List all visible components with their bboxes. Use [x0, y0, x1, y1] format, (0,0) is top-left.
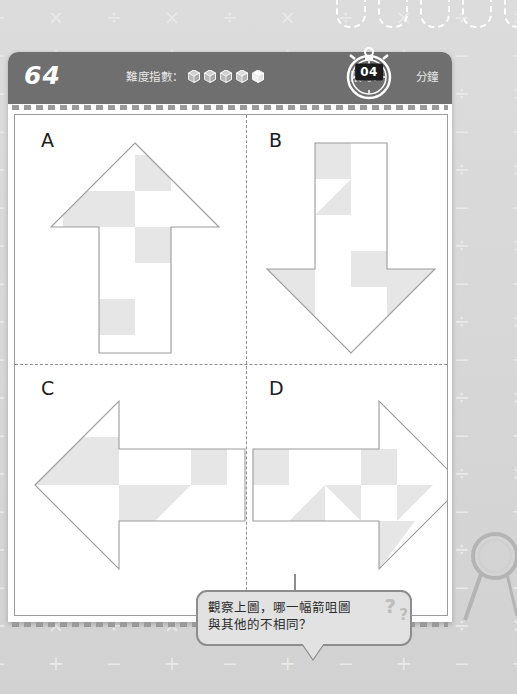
difficulty-label: 難度指數：: [126, 68, 184, 84]
card-header: 64 難度指數： 限時： 分鐘: [8, 52, 452, 104]
magnifier-icon: [461, 520, 517, 640]
difficulty-cube-icon: [236, 70, 248, 83]
puzzle-number: 64: [24, 61, 61, 90]
difficulty-cube-icon: [252, 70, 264, 83]
stopwatch-value: 04: [355, 64, 383, 81]
puzzle-card: 64 難度指數： 限時： 分鐘: [8, 52, 452, 622]
question-text: 觀察上圖，哪一幅箭咀圖 與其他的不相同？: [208, 599, 402, 633]
question-line-1: 觀察上圖，哪一幅箭咀圖: [208, 599, 402, 616]
puzzle-board: A B: [14, 114, 448, 616]
bg-symbol-row: − + − + − + − + − + − + − + − +: [0, 652, 517, 674]
difficulty-cube-icon: [188, 70, 200, 83]
bubble-stem: [294, 574, 296, 592]
question-mark-large-icon: ?: [384, 594, 396, 618]
time-unit-label: 分鐘: [416, 68, 438, 84]
question-line-2: 與其他的不相同？: [208, 616, 402, 633]
figure-d-arrow-right[interactable]: [247, 395, 448, 579]
figure-b-arrow-down[interactable]: [261, 137, 441, 363]
difficulty-indicator: 難度指數：: [126, 68, 264, 84]
difficulty-cube-icon: [204, 70, 216, 83]
difficulty-cube-icon: [220, 70, 232, 83]
stopwatch-icon: 04: [342, 40, 396, 102]
question-mark-small-icon: ?: [399, 606, 408, 624]
question-speech-bubble: 觀察上圖，哪一幅箭咀圖 與其他的不相同？ ? ?: [196, 590, 412, 646]
bubble-tail: [302, 643, 324, 659]
figure-c-arrow-left[interactable]: [29, 395, 251, 579]
divider-horizontal: [15, 364, 447, 365]
figure-a-arrow-up[interactable]: [45, 137, 225, 363]
header-perforation: [12, 105, 448, 110]
